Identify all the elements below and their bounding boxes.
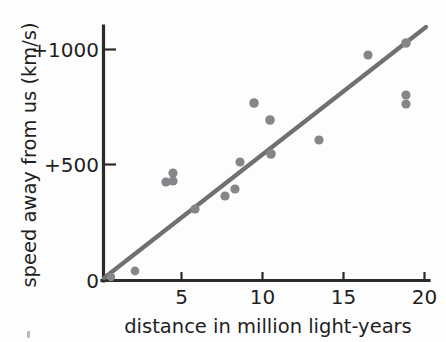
y-axis-ticks	[104, 50, 116, 165]
data-point	[190, 204, 199, 213]
data-point	[265, 115, 275, 125]
page-speck	[27, 331, 30, 338]
data-point	[235, 157, 244, 166]
y-tick-label-0: 0	[86, 269, 99, 293]
y-axis-title: speed away from us (km/s)	[18, 22, 41, 287]
data-point	[249, 98, 259, 108]
data-point	[314, 135, 323, 144]
x-tick-label-5: 5	[175, 285, 188, 309]
data-point	[266, 149, 276, 159]
data-point	[131, 267, 140, 276]
data-point	[363, 50, 372, 59]
data-point	[168, 176, 177, 185]
data-point	[168, 168, 177, 177]
x-tick-label-15: 15	[331, 285, 356, 309]
x-tick-label-10: 10	[250, 285, 275, 309]
data-point	[401, 99, 410, 108]
y-tick-label-500: +500	[44, 153, 99, 177]
data-point	[401, 38, 411, 48]
chart-figure: +1000 +500 0 5 10 15 20 distance in mill…	[0, 0, 446, 342]
y-tick-label-1000: +1000	[31, 38, 99, 62]
data-point	[230, 184, 239, 193]
x-tick-label-20: 20	[412, 285, 437, 309]
data-point	[220, 191, 229, 200]
data-point	[107, 273, 115, 281]
x-axis-title: distance in million light-years	[124, 315, 412, 338]
data-point	[401, 90, 410, 99]
best-fit-trend-line	[104, 27, 426, 278]
hubble-law-scatter-plot: +1000 +500 0 5 10 15 20 distance in mill…	[0, 0, 446, 342]
